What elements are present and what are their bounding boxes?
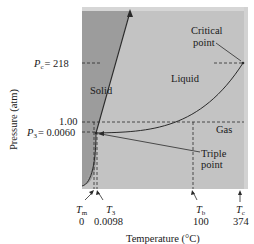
critical-point-label-line1: Critical: [191, 25, 223, 36]
y-tick-one-atm: 1.00: [59, 116, 77, 127]
triple-point-marker: [95, 132, 97, 134]
region-label-gas: Gas: [216, 124, 232, 135]
plot-right-band: [244, 7, 248, 189]
triple-point-label-line1: Triple: [201, 148, 227, 159]
y-tick-pc: Pc= 218: [33, 58, 69, 71]
x-tick-tb-value: 100: [193, 216, 209, 227]
y-axis-label: Pressure (atm): [8, 89, 20, 150]
critical-point-marker: [242, 62, 245, 65]
x-tick-tc-value: 374: [233, 216, 250, 227]
region-label-liquid: Liquid: [171, 73, 200, 84]
y-tick-p3: P3= 0.0060: [26, 127, 75, 140]
x-tick-tm-value: 0: [79, 216, 84, 227]
x-axis-label: Temperature (°C): [126, 233, 200, 244]
tc-arrowhead: [238, 190, 242, 195]
critical-point-label-line2: point: [193, 37, 215, 48]
tm-arrowhead: [89, 190, 94, 195]
x-tick-t3-value: 0.0098: [94, 216, 123, 227]
phase-diagram: Solid Liquid Gas Critical point Triple p…: [0, 0, 254, 244]
region-label-solid: Solid: [90, 85, 113, 96]
triple-point-label-line2: point: [201, 159, 223, 170]
